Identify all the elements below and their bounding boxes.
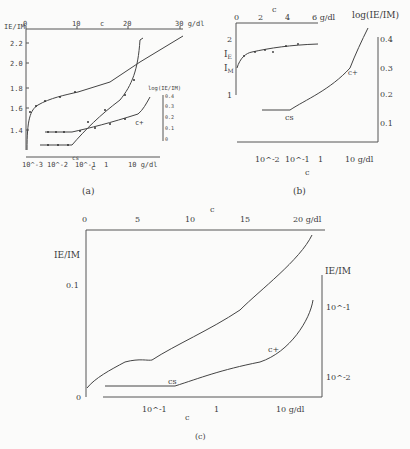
svg-text:c: c <box>305 168 310 177</box>
svg-text:10^-1: 10^-1 <box>285 155 310 164</box>
svg-text:cs: cs <box>168 377 177 386</box>
svg-text:0.4: 0.4 <box>380 35 393 44</box>
svg-text:5: 5 <box>135 215 140 224</box>
svg-text:10 g/dl: 10 g/dl <box>276 405 305 414</box>
svg-text:(a): (a) <box>82 186 94 196</box>
svg-text:c: c <box>272 5 277 14</box>
svg-text:30 g/dl: 30 g/dl <box>175 20 205 28</box>
svg-text:2.0: 2.0 <box>10 60 23 68</box>
svg-text:0.1: 0.1 <box>165 125 174 131</box>
svg-text:10: 10 <box>72 20 80 28</box>
im-label: IM <box>224 63 234 74</box>
svg-text:4: 4 <box>285 13 290 22</box>
svg-text:0.3: 0.3 <box>380 64 393 73</box>
panel-b: c 0 2 4 6 g/dl 2 IE IM 1 c+ cs log(IE/IM… <box>224 5 399 196</box>
svg-text:1.6: 1.6 <box>10 105 23 113</box>
svg-text:0: 0 <box>165 136 168 142</box>
svg-text:c: c <box>91 164 95 172</box>
svg-text:10: 10 <box>185 215 195 224</box>
svg-text:10^-2: 10^-2 <box>255 155 280 164</box>
figure-canvas: 0 10 c 20 30 g/dl IE/IM 2.2 2.0 1.8 1.6 … <box>0 0 410 449</box>
svg-text:0.1: 0.1 <box>66 281 79 290</box>
svg-text:(b): (b) <box>293 186 306 196</box>
panel-a: 0 10 c 20 30 g/dl IE/IM 2.2 2.0 1.8 1.6 … <box>4 20 205 196</box>
svg-text:0: 0 <box>234 13 239 22</box>
svg-text:c: c <box>185 413 190 422</box>
svg-text:1: 1 <box>318 155 323 164</box>
svg-text:0.2: 0.2 <box>165 114 174 120</box>
svg-text:6 g/dl: 6 g/dl <box>312 13 336 22</box>
svg-text:c+: c+ <box>135 119 143 127</box>
svg-text:0.3: 0.3 <box>165 103 174 109</box>
svg-text:log(IE/IM): log(IE/IM) <box>352 10 399 20</box>
svg-text:1: 1 <box>104 161 108 169</box>
panel-c: c 0 5 10 15 20 g/dl IE/IM 0.1 0 cs c+ IE… <box>54 205 351 441</box>
svg-text:1.8: 1.8 <box>10 85 23 93</box>
svg-text:2: 2 <box>258 13 263 22</box>
svg-text:10 g/dl: 10 g/dl <box>345 155 374 164</box>
svg-text:1.4: 1.4 <box>10 127 23 135</box>
svg-text:2: 2 <box>227 35 232 44</box>
svg-text:0.1: 0.1 <box>380 119 393 128</box>
svg-text:1: 1 <box>214 405 219 414</box>
svg-text:IE/IM: IE/IM <box>325 266 351 276</box>
svg-text:20 g/dl: 20 g/dl <box>293 215 322 224</box>
svg-text:(c): (c) <box>195 432 206 441</box>
svg-text:10^-1: 10^-1 <box>326 303 351 312</box>
svg-text:0: 0 <box>76 393 81 402</box>
svg-text:10^-3: 10^-3 <box>22 161 43 169</box>
svg-text:log(IE/IM): log(IE/IM) <box>148 85 181 92</box>
svg-text:2.2: 2.2 <box>10 40 23 48</box>
svg-text:cs: cs <box>285 113 294 122</box>
svg-text:c: c <box>210 205 215 214</box>
ie-label: IE <box>224 49 232 60</box>
svg-text:15: 15 <box>240 215 250 224</box>
svg-text:0.4: 0.4 <box>165 93 174 99</box>
svg-text:0.2: 0.2 <box>380 90 393 99</box>
svg-text:1: 1 <box>227 91 232 100</box>
svg-text:IE/IM: IE/IM <box>54 250 80 260</box>
svg-text:20: 20 <box>123 20 131 28</box>
svg-text:10^-2: 10^-2 <box>326 373 351 382</box>
svg-text:c+: c+ <box>268 345 279 354</box>
svg-text:c: c <box>100 20 104 28</box>
svg-text:10^-2: 10^-2 <box>47 161 68 169</box>
svg-text:c+: c+ <box>348 69 358 77</box>
svg-text:10^-1: 10^-1 <box>142 405 167 414</box>
svg-text:0: 0 <box>82 215 87 224</box>
svg-text:IE/IM: IE/IM <box>4 23 25 31</box>
svg-text:10 g/dl: 10 g/dl <box>128 161 158 169</box>
